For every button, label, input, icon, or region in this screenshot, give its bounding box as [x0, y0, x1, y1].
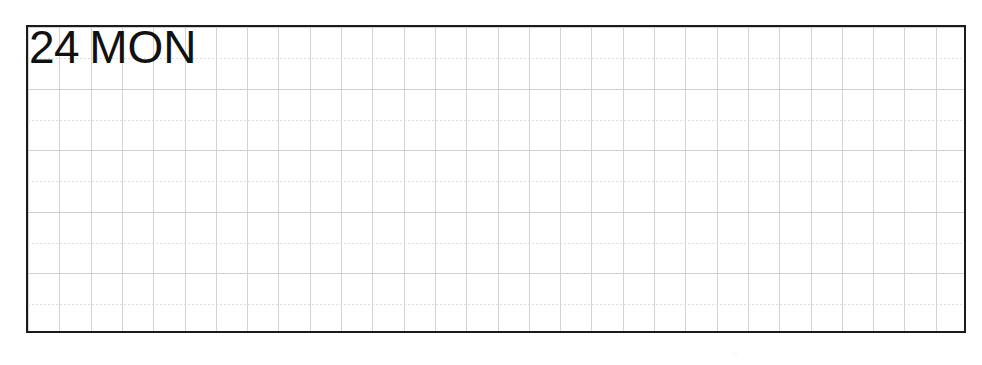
day-label: 24MON	[29, 24, 197, 70]
day-number: 24	[29, 21, 79, 73]
scan-artifact-speck	[731, 352, 738, 357]
weekday-abbreviation: MON	[89, 21, 196, 73]
scanned-page: 24MON	[0, 0, 982, 365]
